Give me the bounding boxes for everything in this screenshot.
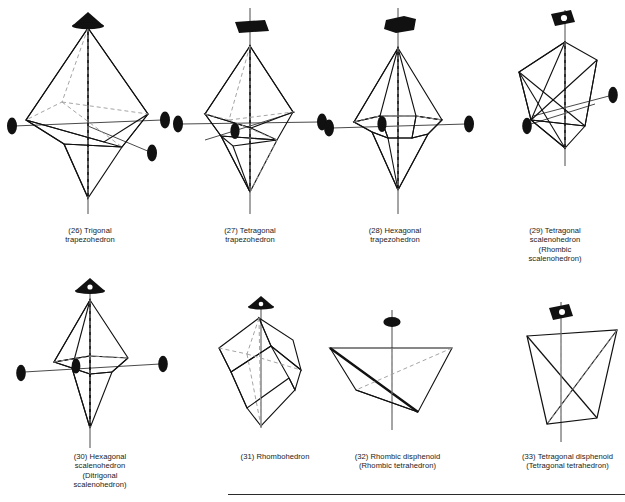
- figure-30-caption: (30) Hexagonal scalenohedron (Ditrigonal…: [35, 452, 165, 489]
- crystal-body-30: [54, 300, 128, 428]
- fourfold-axis-symbol-27: [235, 20, 269, 33]
- figure-26-caption: (26) Trigonal trapezohedron: [25, 226, 155, 245]
- figure-27-tetragonal-trapezohedron: [165, 0, 335, 214]
- figure-29-caption: (29) Tetragonal scalenohedron (Rhombic s…: [490, 226, 620, 263]
- threefold-inversion-axis-symbol-30: [75, 278, 105, 294]
- bottom-rule: [228, 494, 625, 495]
- figure-29-tetragonal-scalenohedron: [485, 0, 625, 214]
- fourfold-inversion-axis-symbol-29: [551, 10, 575, 26]
- crystal-forms-plate: (26) Trigonal trapezohedron: [0, 0, 625, 502]
- figure-28-hexagonal-trapezohedron: [320, 0, 480, 214]
- figure-30-hexagonal-scalenohedron: [10, 276, 190, 448]
- hidden-edges-27: [205, 46, 293, 192]
- crystal-body-27: [205, 46, 293, 192]
- crystal-body-32: [330, 348, 452, 412]
- crystal-body-31: [219, 318, 301, 426]
- figure-26-trigonal-trapezohedron: [0, 2, 180, 214]
- threefold-inversion-axis-symbol-31: [248, 296, 274, 310]
- crystal-body-33: [527, 330, 617, 424]
- figure-27-caption: (27) Tetragonal trapezohedron: [185, 226, 315, 245]
- hidden-edges-30: [54, 300, 128, 428]
- figure-28-caption: (28) Hexagonal trapezohedron: [330, 226, 460, 245]
- crystal-body-26: [26, 28, 148, 198]
- hidden-edges-26: [26, 28, 148, 198]
- figure-32-caption: (32) Rhombic disphenoid (Rhombic tetrahe…: [310, 452, 485, 471]
- twofold-axis-symbol-32: [383, 317, 400, 327]
- figure-33-caption: (33) Tetragonal disphenoid (Tetragonal t…: [480, 452, 625, 471]
- figure-33-tetragonal-disphenoid: [485, 296, 625, 448]
- threefold-axis-symbol-26: [72, 12, 104, 29]
- axis-lines-28: [332, 8, 466, 214]
- sixfold-axis-symbol-28: [384, 16, 416, 33]
- fourfold-inversion-axis-symbol-33: [549, 304, 573, 320]
- twofold-axis-symbols-29: [522, 87, 618, 134]
- crystal-body-29: [519, 42, 597, 148]
- bold-edge-32: [330, 348, 418, 412]
- figure-32-rhombic-disphenoid: [320, 300, 475, 448]
